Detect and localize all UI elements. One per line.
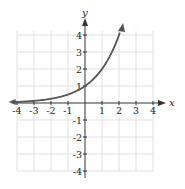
x-tick-label: 2 xyxy=(116,105,122,116)
x-tick-label: -1 xyxy=(63,105,72,116)
axes: x y xyxy=(14,7,175,178)
y-tick-label: 4 xyxy=(76,30,82,41)
y-tick-label: -2 xyxy=(73,132,82,143)
exponential-curve xyxy=(14,33,120,102)
x-tick-label: -2 xyxy=(46,105,55,116)
x-tick-label: 4 xyxy=(150,105,156,116)
x-tick-label: -4 xyxy=(12,105,21,116)
y-axis-arrow-icon xyxy=(82,18,88,26)
x-tick-label: 3 xyxy=(133,105,139,116)
x-tick-label: 1 xyxy=(99,105,105,116)
y-tick-label: 2 xyxy=(76,64,82,75)
curve-right-arrow-icon xyxy=(118,23,125,32)
exponential-graph: x y -4-3-2-112344321-1-2-3-4 xyxy=(0,0,185,189)
x-axis-label: x xyxy=(169,97,175,108)
y-axis-label: y xyxy=(81,7,88,18)
y-tick-label: -3 xyxy=(73,149,82,160)
x-tick-label: -3 xyxy=(29,105,38,116)
y-tick-label: -4 xyxy=(73,166,82,177)
y-tick-label: -1 xyxy=(73,115,82,126)
y-tick-label: 3 xyxy=(76,47,82,58)
x-axis-arrow-icon xyxy=(158,100,166,106)
